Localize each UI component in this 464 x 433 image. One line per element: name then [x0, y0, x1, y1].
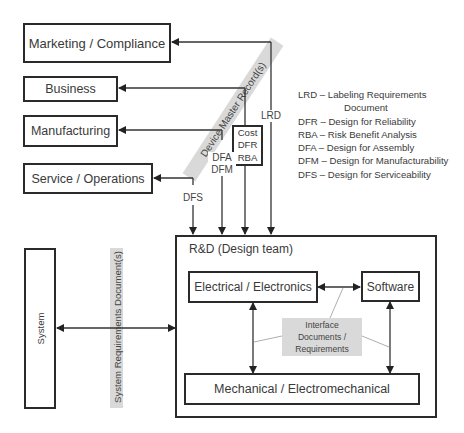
legend-item: DFM – Design for Manufacturability: [298, 154, 448, 167]
legend-item: DFR – Design for Reliability: [298, 115, 448, 128]
rd-title: R&D (Design team): [189, 242, 293, 256]
dfa-label: DFA: [208, 152, 236, 164]
legend-item: Document: [298, 101, 448, 114]
service-operations-box: Service / Operations: [23, 163, 153, 194]
cost-dfr-rba-box: Cost DFR RBA: [232, 125, 263, 166]
dfs-label: DFS: [180, 192, 206, 204]
manufacturing-box: Manufacturing: [23, 115, 118, 147]
legend-item: RBA – Risk Benefit Analysis: [298, 128, 448, 141]
software-box: Software: [361, 271, 420, 302]
acronym-legend: LRD – Labeling Requirements Document DFR…: [298, 88, 448, 181]
mechanical-electromechanical-box: Mechanical / Electromechanical: [184, 373, 420, 405]
electrical-electronics-box: Electrical / Electronics: [188, 271, 318, 303]
legend-item: LRD – Labeling Requirements: [298, 88, 448, 101]
lrd-label: LRD: [259, 110, 283, 122]
legend-item: DFS – Design for Serviceability: [298, 168, 448, 181]
system-box: System: [24, 248, 56, 409]
business-box: Business: [23, 76, 118, 102]
dfm-label: DFM: [208, 164, 236, 176]
marketing-compliance-box: Marketing / Compliance: [23, 23, 171, 63]
legend-item: DFA – Design for Assembly: [298, 141, 448, 154]
